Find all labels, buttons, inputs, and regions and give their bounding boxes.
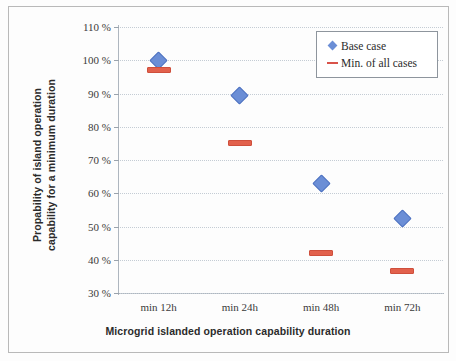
y-axis-title-line-1: Propability of island operation [30, 79, 44, 251]
gridline [118, 160, 443, 161]
y-axis-tick [114, 60, 119, 61]
data-point-dash [147, 67, 171, 73]
x-axis-tick-label: min 48h [303, 301, 339, 313]
y-axis-tick [114, 27, 119, 28]
legend-label-min-all-cases: Min. of all cases [341, 57, 417, 69]
data-point-diamond [231, 86, 249, 104]
data-point-dash [309, 250, 333, 256]
y-axis-tick-label: 100 % [83, 54, 111, 66]
x-axis-tick-label: min 12h [140, 301, 176, 313]
x-axis-tick-label: min 24h [222, 301, 258, 313]
chart-legend: Base case Min. of all cases [316, 31, 438, 78]
data-point-dash [228, 140, 252, 146]
y-axis-title: Propability of island operation capabili… [22, 40, 66, 290]
legend-item-min-all-cases[interactable]: Min. of all cases [323, 54, 431, 71]
y-axis-tick-label: 50 % [88, 221, 111, 233]
data-point-diamond [393, 209, 411, 227]
legend-label-base-case: Base case [341, 40, 386, 52]
legend-item-base-case[interactable]: Base case [323, 37, 431, 54]
gridline [118, 127, 443, 128]
chart-figure: Propability of island operation capabili… [0, 0, 456, 361]
x-axis-tick-label: min 72h [384, 301, 420, 313]
y-axis-tick-label: 90 % [88, 88, 111, 100]
data-point-diamond [312, 174, 330, 192]
gridline [118, 94, 443, 95]
y-axis-tick [114, 160, 119, 161]
x-axis-title: Microgrid islanded operation capability … [0, 325, 456, 337]
gridline [118, 27, 443, 28]
y-axis-title-line-2: capability for a minimum duration [44, 79, 58, 251]
y-axis-tick-label: 40 % [88, 254, 111, 266]
y-axis-tick-label: 110 % [83, 21, 111, 33]
y-axis-tick [114, 193, 119, 194]
y-axis-tick [114, 260, 119, 261]
y-axis-tick [114, 293, 119, 294]
gridline [118, 260, 443, 261]
gridline [118, 193, 443, 194]
gridline [118, 227, 443, 228]
y-axis-tick [114, 94, 119, 95]
gridline [118, 293, 443, 294]
diamond-marker-icon [323, 42, 341, 49]
y-axis-tick-label: 30 % [88, 287, 111, 299]
dash-marker-icon [323, 62, 341, 64]
y-axis-tick-label: 70 % [88, 154, 111, 166]
y-axis-tick-label: 80 % [88, 121, 111, 133]
y-axis-tick [114, 127, 119, 128]
data-point-dash [390, 268, 414, 274]
y-axis-tick [114, 227, 119, 228]
y-axis-tick-label: 60 % [88, 187, 111, 199]
